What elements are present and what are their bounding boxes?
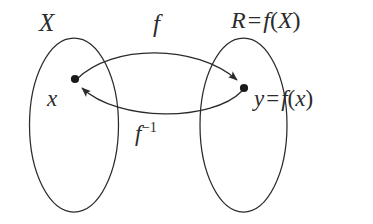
forward-map-arrow xyxy=(77,53,237,80)
y-dot xyxy=(240,84,248,92)
inverse-map-exponent: −1 xyxy=(141,119,157,135)
forward-map-label: f xyxy=(153,11,160,36)
target-element-symbol: y xyxy=(254,86,264,111)
range-set-equals: = xyxy=(246,7,264,33)
range-set-function: f xyxy=(263,7,270,33)
domain-set-label: X xyxy=(39,10,54,35)
diagram-canvas xyxy=(0,0,373,224)
target-element-label: y=f(x) xyxy=(254,87,313,110)
x-dot xyxy=(71,75,79,83)
target-element-equals: = xyxy=(264,86,281,111)
target-element-close-paren: ) xyxy=(305,86,313,111)
target-element-argument: x xyxy=(295,86,305,111)
range-set-label: R=f(X) xyxy=(231,8,301,32)
range-set-open-paren: ( xyxy=(270,7,278,33)
range-set-ellipse xyxy=(200,38,287,212)
source-element-label: x xyxy=(47,87,57,110)
range-set-symbol: R xyxy=(231,7,246,33)
function-inverse-diagram: X f R=f(X) x y=f(x) f−1 xyxy=(0,0,373,224)
domain-set-ellipse xyxy=(30,38,119,212)
inverse-map-label: f−1 xyxy=(135,122,157,145)
inverse-map-arrow xyxy=(82,88,242,114)
range-set-close-paren: ) xyxy=(293,7,301,33)
range-set-argument: X xyxy=(278,7,293,33)
